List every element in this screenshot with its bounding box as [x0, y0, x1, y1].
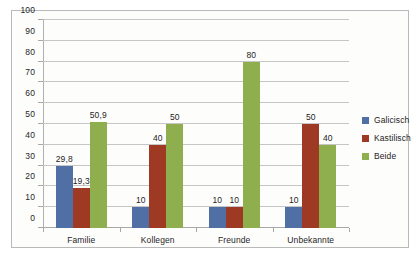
y-axis-tick-label: 40 — [25, 130, 35, 140]
y-axis-tick-label: 90 — [25, 26, 35, 36]
legend-item[interactable]: Galicisch — [362, 111, 420, 129]
y-axis-tick-label: 30 — [25, 151, 35, 161]
x-axis-tick — [196, 228, 197, 232]
y-axis-tick-label: 20 — [25, 171, 35, 181]
bar-value-label: 29,8 — [56, 154, 73, 164]
bar-group: 104050Kollegen — [120, 20, 197, 228]
bar[interactable]: 50,9 — [90, 122, 107, 228]
bar-group-bars: 29,819,350,9 — [43, 20, 120, 228]
bar-value-label: 10 — [212, 195, 222, 205]
x-axis-tick — [349, 228, 350, 232]
legend-item[interactable]: Kastilisch — [362, 129, 420, 147]
y-axis-tick-label: 60 — [25, 88, 35, 98]
x-axis-tick — [43, 228, 44, 232]
bar[interactable]: 40 — [319, 145, 336, 228]
y-axis-tick-label: 100 — [21, 5, 35, 15]
legend-item-label: Galicisch — [374, 115, 409, 125]
bar[interactable]: 10 — [285, 207, 302, 228]
bar[interactable]: 10 — [226, 207, 243, 228]
plot-area: 0102030405060708090100 29,819,350,9Famil… — [43, 20, 349, 228]
legend-item[interactable]: Beide — [362, 147, 420, 165]
bar[interactable]: 10 — [209, 207, 226, 228]
chart-frame: 0102030405060708090100 29,819,350,9Famil… — [11, 10, 409, 248]
x-axis-tick — [120, 228, 121, 232]
bar-value-label: 50,9 — [90, 110, 107, 120]
bar-value-label: 19,3 — [73, 176, 90, 186]
bar-group: 105040Unbekannte — [273, 20, 350, 228]
bar[interactable]: 80 — [243, 62, 260, 228]
bar-group-bars: 104050 — [120, 20, 197, 228]
bar[interactable]: 50 — [302, 124, 319, 228]
legend-item-label: Beide — [374, 151, 396, 161]
bar-value-label: 80 — [246, 50, 256, 60]
legend-swatch-icon — [362, 135, 369, 142]
bar-value-label: 10 — [136, 195, 146, 205]
chart-legend: GalicischKastilischBeide — [362, 111, 420, 165]
bar-value-label: 10 — [289, 195, 299, 205]
x-axis-category-label: Familie — [43, 235, 120, 245]
y-axis-tick-label: 80 — [25, 47, 35, 57]
bar-group: 29,819,350,9Familie — [43, 20, 120, 228]
legend-swatch-icon — [362, 117, 369, 124]
bar[interactable]: 19,3 — [73, 188, 90, 228]
bar-value-label: 50 — [170, 112, 180, 122]
bar-value-label: 50 — [306, 112, 316, 122]
y-axis-tick-label: 70 — [25, 67, 35, 77]
bar[interactable]: 50 — [166, 124, 183, 228]
x-axis-category-label: Unbekannte — [273, 235, 350, 245]
bar-value-label: 40 — [323, 133, 333, 143]
bar-group-bars: 105040 — [273, 20, 350, 228]
legend-item-label: Kastilisch — [374, 133, 411, 143]
bar-group: 101080Freunde — [196, 20, 273, 228]
x-axis-category-label: Kollegen — [120, 235, 197, 245]
bar-value-label: 10 — [229, 195, 239, 205]
legend-swatch-icon — [362, 153, 369, 160]
bar[interactable]: 40 — [149, 145, 166, 228]
bar-value-label: 40 — [153, 133, 163, 143]
y-axis-tick-label: 10 — [25, 192, 35, 202]
x-axis-tick — [273, 228, 274, 232]
bar[interactable]: 10 — [132, 207, 149, 228]
y-axis-tick-label: 0 — [30, 213, 35, 223]
bar-group-bars: 101080 — [196, 20, 273, 228]
y-axis-tick-label: 50 — [25, 109, 35, 119]
x-axis-category-label: Freunde — [196, 235, 273, 245]
bar[interactable]: 29,8 — [56, 166, 73, 228]
